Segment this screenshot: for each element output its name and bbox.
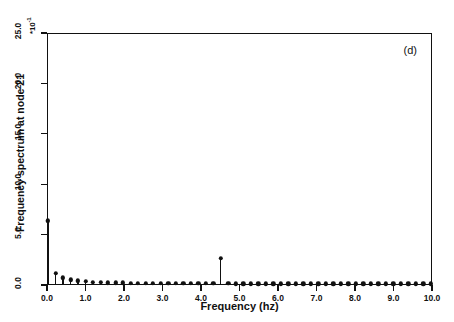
y-axis-tick-label: 20.0 — [13, 63, 23, 99]
data-point-marker — [91, 280, 95, 284]
x-axis-tick — [354, 285, 355, 291]
data-point-marker — [98, 280, 102, 284]
x-axis-tick — [277, 285, 278, 291]
y-axis-tick-label: 10.0 — [13, 164, 23, 200]
x-axis-tick — [431, 285, 432, 291]
data-point-marker — [68, 277, 72, 281]
stem-line — [220, 258, 222, 284]
x-axis-tick — [393, 285, 394, 291]
x-axis-tick — [200, 285, 201, 291]
x-axis-tick — [316, 285, 317, 291]
data-point-marker — [218, 256, 222, 260]
figure-panel: *10-1 Frequency spectrum at node 21 0.05… — [0, 0, 454, 322]
data-point-marker — [53, 271, 57, 275]
x-axis-tick — [162, 285, 163, 291]
stem-plot-series — [48, 34, 431, 284]
data-point-marker — [61, 276, 65, 280]
y-axis-tick-label: 5.0 — [13, 215, 23, 251]
data-point-marker — [83, 279, 87, 283]
x-axis-tick — [46, 285, 47, 291]
x-axis-title: Frequency (hz) — [47, 300, 432, 312]
y-axis-tick-label: 15.0 — [13, 114, 23, 150]
stem-line — [47, 221, 49, 285]
data-point-marker — [46, 218, 50, 222]
data-point-marker — [76, 278, 80, 282]
x-axis-tick — [85, 285, 86, 291]
y-axis-tick-label: 0.0 — [13, 265, 23, 301]
x-axis-tick — [239, 285, 240, 291]
y-axis-tick-label: 25.0 — [13, 13, 23, 49]
y-axis-multiplier-label: *10-1 — [26, 8, 56, 34]
y-tick-label-group: 0.05.010.015.020.025.0 — [0, 33, 41, 285]
x-axis-tick — [123, 285, 124, 291]
plot-frame: (d) — [47, 33, 432, 285]
